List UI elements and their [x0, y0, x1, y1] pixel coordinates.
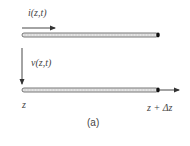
voltage-label: v(z,t)	[31, 58, 51, 68]
top-conductor	[22, 33, 160, 38]
left-position-label: z	[22, 100, 26, 110]
current-label: i(z,t)	[28, 8, 47, 18]
bottom-conductor	[22, 88, 160, 93]
figure-caption: (a)	[87, 118, 99, 128]
right-position-label: z + Δz	[147, 103, 172, 113]
transmission-line-diagram: i(z,t) v(z,t) z z + Δz (a)	[0, 0, 190, 146]
